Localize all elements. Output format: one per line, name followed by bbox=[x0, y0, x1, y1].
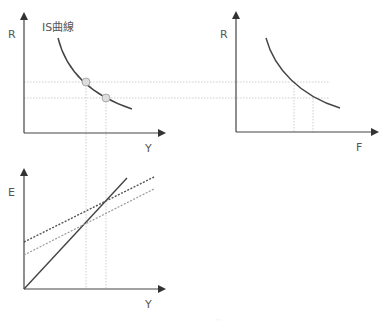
y-axis-label: R bbox=[8, 28, 16, 41]
equilibrium-point-1 bbox=[82, 78, 90, 86]
x-axis-label: Y bbox=[144, 298, 152, 311]
y-axis-label: R bbox=[220, 28, 228, 41]
expenditure-line-high bbox=[24, 177, 154, 242]
panel-top-left: R Y IS曲線 bbox=[8, 16, 162, 155]
panel-top-right: R F bbox=[220, 15, 375, 154]
panel-bottom-left: E Y bbox=[8, 172, 162, 311]
equilibrium-point-2 bbox=[102, 94, 110, 102]
x-axis-label: Y bbox=[144, 142, 152, 155]
footer-faint-text: ··· bbox=[215, 316, 221, 323]
x-axis-label: F bbox=[356, 141, 362, 154]
curve-label: IS曲線 bbox=[42, 20, 74, 34]
y-axis-label: E bbox=[8, 186, 15, 199]
guide-lines bbox=[24, 82, 330, 288]
expenditure-line-low bbox=[24, 189, 154, 255]
is-curve-diagram: R Y IS曲線 R F E Y ··· bbox=[0, 0, 385, 323]
